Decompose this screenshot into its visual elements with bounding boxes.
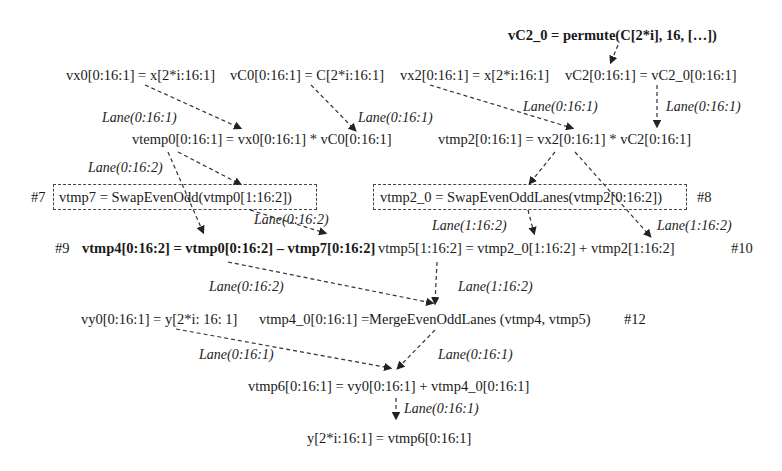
edge-label-vx0-vtemp0: Lane(0:16:1) — [102, 110, 177, 126]
edge-vtmp2_0-vtmp5 — [528, 210, 534, 233]
edge-label-vy0-vtmp6: Lane(0:16:1) — [199, 347, 274, 363]
vx2-node: vx2[0:16:1] = x[2*i:16:1] — [400, 67, 549, 83]
edge-label-vx2-vtmp2: Lane(0:16:1) — [523, 99, 598, 115]
vtmp2_0-node: vtmp2_0 = SwapEvenOddLanes(vtmp2[0:16:2]… — [380, 189, 662, 205]
edge-label-vtmp2-vtmp5: Lane(1:16:2) — [657, 218, 732, 234]
vC0-node: vC0[0:16:1] = C[2*i:16:1] — [230, 67, 384, 83]
edge-label-vtmp6-y: Lane(0:16:1) — [404, 401, 479, 417]
edge-vC0-vtemp0 — [311, 85, 355, 130]
edge-label-vtmp5-merge: Lane(1:16:2) — [458, 279, 533, 295]
vtmp2-node: vtmp2[0:16:1] = vx2[0:16:1] * vC2[0:16:1… — [438, 131, 691, 147]
edge-label-merge-vtmp6: Lane(0:16:1) — [438, 347, 513, 363]
vtmp5-node: vtmp5[1:16:2] = vtmp2_0[1:16:2] + vtmp2[… — [378, 240, 675, 256]
vtmp2_0-tag: #8 — [697, 189, 712, 205]
edge-vtemp0-vtmp7 — [178, 152, 240, 184]
vtmp7-tag: #7 — [31, 189, 46, 205]
y-output-node: y[2*i:16:1] = vtmp6[0:16:1] — [307, 430, 471, 446]
vtmp4-node: vtmp4[0:16:2] = vtmp0[0:16:2] – vtmp7[0:… — [82, 240, 375, 256]
vx0-node: vx0[0:16:1] = x[2*i:16:1] — [66, 67, 215, 83]
vtemp0-node: vtemp0[0:16:1] = vx0[0:16:1] * vC0[0:16:… — [132, 131, 392, 147]
vtmp5-tag: #10 — [731, 240, 753, 256]
vC2-node: vC2[0:16:1] = vC2_0[0:16:1] — [565, 67, 737, 83]
permute-node: vC2_0 = permute(C[2*i], 16, […]) — [508, 27, 717, 43]
edge-label-vtmp4-merge: Lane(0:16:2) — [209, 279, 284, 295]
edge-permute-vC2 — [611, 45, 618, 62]
vtmp7-node: vtmp7 = SwapEvenOdd(vtmp0[1:16:2]) — [59, 189, 292, 205]
edge-merge-vtmp6 — [398, 330, 435, 368]
vtmp4-tag: #9 — [55, 240, 70, 256]
vtmp4_0-tag: #12 — [624, 311, 646, 327]
edge-label-vC0-vtemp0: Lane(0:16:1) — [358, 110, 433, 126]
edge-vtmp2-vtmp2_0 — [530, 152, 555, 183]
edge-vtmp5-merge — [435, 262, 437, 303]
edge-label-vtemp0-vtmp4: Lane(0:16:2) — [88, 160, 163, 176]
edge-label-vtmp2_0-vtmp5: Lane(1:16:2) — [432, 218, 507, 234]
vtmp4_0-node: vtmp4_0[0:16:1] =MergeEvenOddLanes (vtmp… — [259, 311, 591, 327]
edge-label-vC2-vtmp2: Lane(0:16:1) — [666, 99, 741, 115]
vtmp6-node: vtmp6[0:16:1] = vy0[0:16:1] + vtmp4_0[0:… — [248, 378, 529, 394]
edge-label-vtmp7-vtmp4: Lane(0:16:2) — [254, 212, 329, 228]
vy0-node: vy0[0:16:1] = y[2*i: 16: 1] — [81, 311, 237, 327]
